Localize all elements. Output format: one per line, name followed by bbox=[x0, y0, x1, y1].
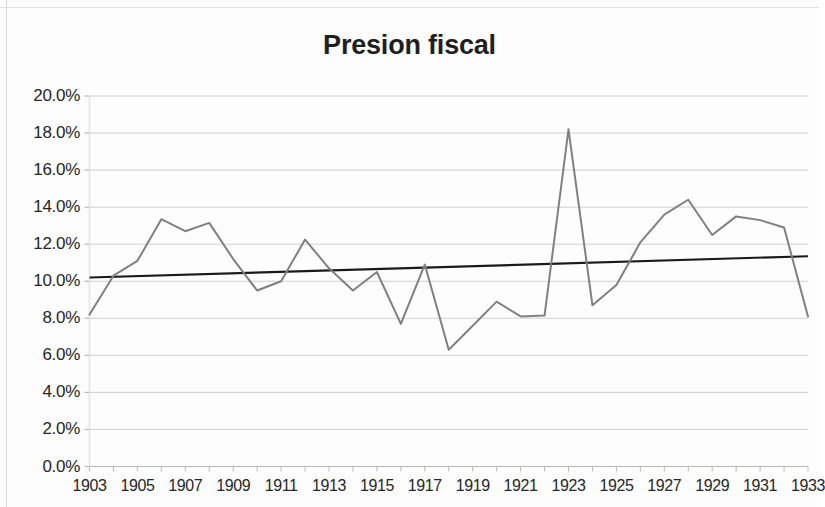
y-axis-tick-label: 8.0% bbox=[8, 308, 80, 328]
x-axis-tick-label: 1919 bbox=[456, 477, 490, 495]
x-axis-tick-label: 1915 bbox=[360, 477, 394, 495]
x-axis-tick-label: 1909 bbox=[216, 477, 250, 495]
x-axis-tick-label: 1921 bbox=[504, 477, 538, 495]
trend-line bbox=[90, 256, 809, 277]
y-axis-tick-label: 16.0% bbox=[8, 160, 80, 180]
y-axis-tick-label: 0.0% bbox=[8, 457, 80, 477]
y-axis-tick-label: 14.0% bbox=[8, 197, 80, 217]
x-axis-tick-label: 1913 bbox=[312, 477, 346, 495]
x-axis-tick-label: 1917 bbox=[408, 477, 442, 495]
x-axis-tick-label: 1905 bbox=[120, 477, 154, 495]
x-axis-tick-label: 1925 bbox=[599, 477, 633, 495]
x-axis-tick-label: 1929 bbox=[695, 477, 729, 495]
data-series-line bbox=[90, 129, 809, 349]
y-axis-tick-label: 18.0% bbox=[8, 123, 80, 143]
x-axis-tick-label: 1923 bbox=[552, 477, 586, 495]
x-axis-tick-label: 1903 bbox=[73, 477, 107, 495]
x-axis-tick-label: 1927 bbox=[647, 477, 681, 495]
x-axis-tick-label: 1907 bbox=[168, 477, 202, 495]
y-axis-tick-label: 12.0% bbox=[8, 234, 80, 254]
y-axis-tick-label: 20.0% bbox=[8, 86, 80, 106]
y-axis-tick-label: 4.0% bbox=[8, 382, 80, 402]
y-axis-tick-label: 2.0% bbox=[8, 419, 80, 439]
y-axis-tick-label: 6.0% bbox=[8, 345, 80, 365]
x-axis-tick-label: 1931 bbox=[743, 477, 777, 495]
y-axis-tick-label: 10.0% bbox=[8, 271, 80, 291]
x-axis-tick-label: 1933 bbox=[791, 477, 825, 495]
x-axis-tick-label: 1911 bbox=[265, 477, 298, 495]
